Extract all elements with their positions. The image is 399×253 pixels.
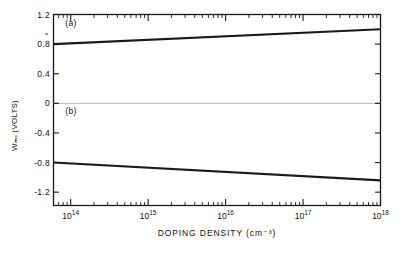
x-tick-label-text: 1017 [289, 210, 317, 220]
x-tick-label-text: 1014 [57, 210, 85, 220]
y-tick-label-text: 0 [24, 99, 50, 108]
curve-annotation: (a) [65, 19, 77, 28]
y-tick-label-text: 0.4 [24, 70, 50, 79]
y-tick-label-text: -0.8 [24, 159, 50, 168]
data-series-2 [54, 163, 381, 181]
y-tick-label-text: 1.2 [24, 11, 50, 20]
chart-figure: Wₘₛ (VOLTS) DOPING DENSITY (cm⁻³) 1.20.8… [0, 0, 399, 253]
y-tick-label-text: -1.2 [24, 188, 50, 197]
data-series-1 [54, 29, 381, 44]
x-tick-label-text: 1015 [134, 210, 162, 220]
y-tick-label-text: -0.4 [24, 129, 50, 138]
x-tick-label-text: 1018 [367, 210, 395, 220]
scan-speck [45, 33, 48, 35]
curve-annotation: (b) [65, 107, 77, 116]
x-tick-label-text: 1016 [212, 210, 240, 220]
y-tick-label-text: 0.8 [24, 40, 50, 49]
